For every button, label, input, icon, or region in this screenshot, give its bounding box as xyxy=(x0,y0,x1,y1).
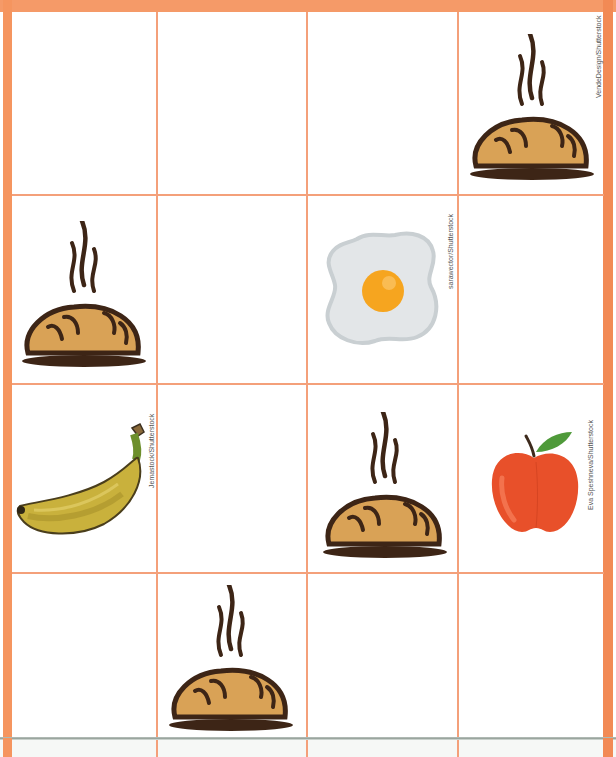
cell-r3-c1: Jemastock/Shutterstock xyxy=(12,384,156,572)
cell-r3-c4: Eva Speshneva/Shutterstock xyxy=(458,384,603,572)
cell-r2-c3: sarawector/Shutterstock xyxy=(307,195,457,383)
steaming-bread-icon xyxy=(462,34,602,184)
image-credit: VendeDesign/Shutterstock xyxy=(595,16,602,99)
steaming-bread-icon xyxy=(14,221,154,371)
cell-r2-c1 xyxy=(12,195,156,383)
cell-r1-c4: VendeDesign/Shutterstock xyxy=(458,12,603,194)
apple-icon xyxy=(486,428,586,538)
banana-icon xyxy=(14,410,158,550)
cell-r4-c2 xyxy=(157,573,306,738)
grid-line-vertical xyxy=(306,740,308,757)
cell-r3-c3 xyxy=(307,384,457,572)
border-top xyxy=(0,0,616,12)
border-left xyxy=(3,738,12,757)
image-credit: sarawector/Shutterstock xyxy=(447,214,454,289)
image-credit: Eva Speshneva/Shutterstock xyxy=(587,420,594,510)
image-credit: Jemastock/Shutterstock xyxy=(148,414,155,488)
worksheet-frame: VendeDesign/Shutterstock sarawector/Shut… xyxy=(0,0,616,757)
next-page-strip xyxy=(0,740,616,757)
fried-egg-icon xyxy=(319,225,449,355)
steaming-bread-icon xyxy=(315,412,455,562)
border-left xyxy=(3,0,12,757)
border-right xyxy=(603,0,613,757)
grid-line-vertical xyxy=(156,740,158,757)
grid-line-vertical xyxy=(457,740,459,757)
steaming-bread-icon xyxy=(161,585,301,735)
border-right xyxy=(603,738,613,757)
grid-line-horizontal xyxy=(12,572,604,574)
